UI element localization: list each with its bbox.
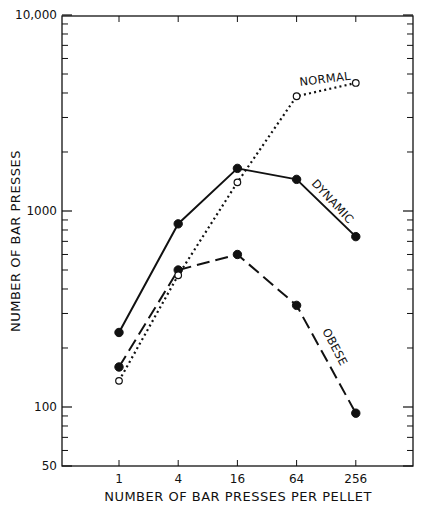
data-point-marker bbox=[352, 409, 360, 417]
data-point-marker bbox=[292, 301, 300, 309]
series-lines bbox=[115, 80, 360, 418]
y-tick-label: 100 bbox=[34, 400, 57, 414]
x-tick-label: 16 bbox=[230, 472, 245, 486]
data-point-marker bbox=[233, 164, 241, 172]
data-point-marker bbox=[115, 363, 123, 371]
x-tick-label: 64 bbox=[289, 472, 304, 486]
data-point-marker bbox=[292, 175, 300, 183]
series-label-normal: NORMAL bbox=[299, 69, 352, 89]
data-point-marker bbox=[175, 272, 182, 279]
y-axis-title: NUMBER OF BAR PRESSES bbox=[8, 150, 23, 332]
y-tick-label: 50 bbox=[42, 459, 57, 473]
line-chart: 50100100010,000 141664256 NUMBER OF BAR … bbox=[0, 0, 427, 508]
plot-frame bbox=[62, 16, 413, 466]
data-point-marker bbox=[352, 232, 360, 240]
series-label-obese: OBESE bbox=[319, 326, 350, 368]
data-point-marker bbox=[234, 179, 241, 186]
data-point-marker bbox=[353, 80, 360, 87]
data-point-marker bbox=[233, 250, 241, 258]
x-axis-ticks: 141664256 bbox=[115, 16, 367, 486]
x-tick-label: 1 bbox=[115, 472, 123, 486]
series-line bbox=[119, 83, 356, 381]
plot-border bbox=[62, 16, 413, 466]
series-label-dynamic: DYNAMIC bbox=[309, 176, 357, 226]
x-tick-label: 256 bbox=[344, 472, 367, 486]
data-point-marker bbox=[293, 93, 300, 100]
y-tick-label: 1000 bbox=[26, 204, 57, 218]
x-axis-title: NUMBER OF BAR PRESSES PER PELLET bbox=[104, 489, 372, 504]
y-tick-label: 10,000 bbox=[15, 8, 57, 22]
x-tick-label: 4 bbox=[174, 472, 182, 486]
data-point-marker bbox=[174, 220, 182, 228]
data-point-marker bbox=[115, 328, 123, 336]
data-point-marker bbox=[116, 378, 123, 385]
